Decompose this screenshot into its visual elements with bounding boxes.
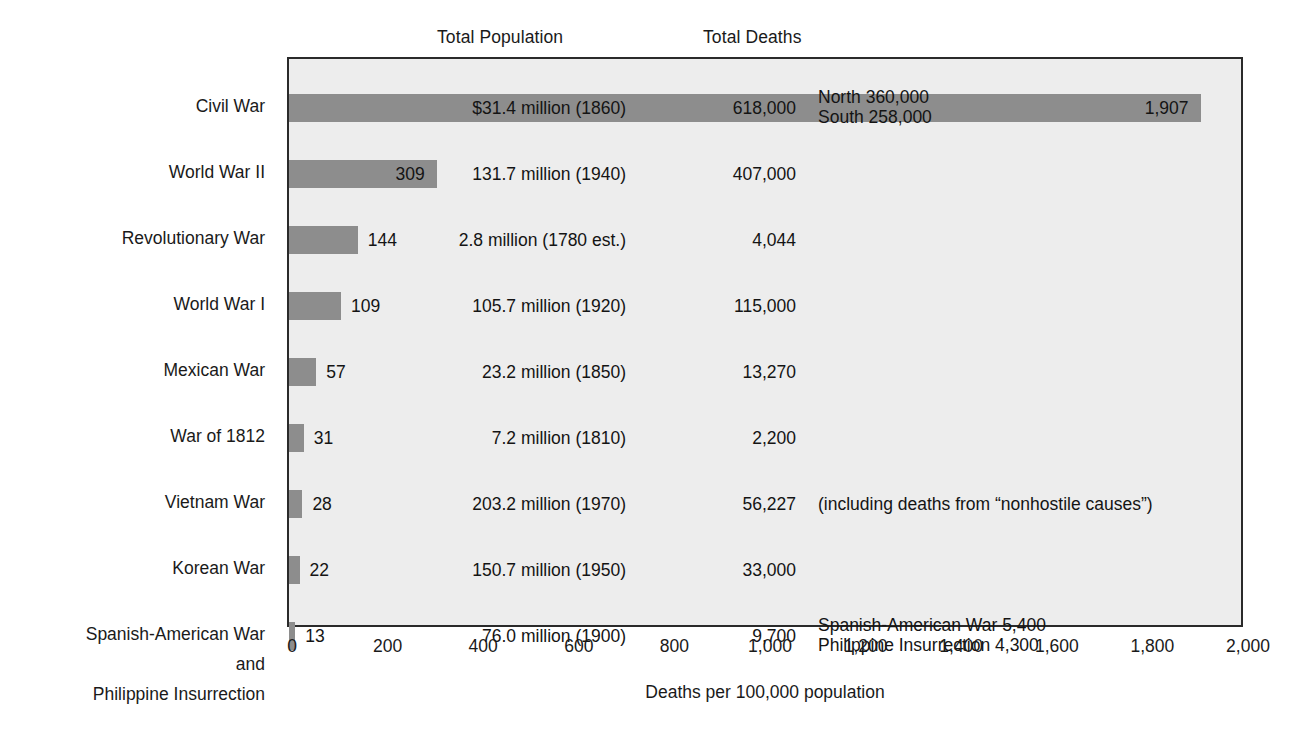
category-label: Spanish-American WarandPhilippine Insurr… xyxy=(86,619,265,709)
bar xyxy=(289,292,341,320)
cell-total-deaths: 56,227 xyxy=(742,490,796,518)
category-label: World War I xyxy=(174,289,265,319)
x-tick-label: 400 xyxy=(469,636,498,657)
category-label: World War II xyxy=(169,157,265,187)
category-label: Mexican War xyxy=(164,355,265,385)
x-tick-label: 1,400 xyxy=(939,636,983,657)
category-label: War of 1812 xyxy=(170,421,265,451)
cell-note: (including deaths from “nonhostile cause… xyxy=(818,490,1153,518)
category-label: Civil War xyxy=(196,91,265,121)
bar-value-label: 31 xyxy=(314,424,333,452)
cell-total-population: 150.7 million (1950) xyxy=(472,556,626,584)
cell-total-deaths: 13,270 xyxy=(742,358,796,386)
chart-row: 5723.2 million (1850)13,270 xyxy=(289,339,1241,405)
chart-row: 109105.7 million (1920)115,000 xyxy=(289,273,1241,339)
x-tick-label: 0 xyxy=(287,636,297,657)
column-header-total-population: Total Population xyxy=(437,27,563,48)
x-tick-label: 800 xyxy=(660,636,689,657)
chart-row: 28203.2 million (1970)56,227(including d… xyxy=(289,471,1241,537)
x-tick-label: 1,200 xyxy=(844,636,888,657)
cell-total-deaths: 618,000 xyxy=(733,94,796,122)
bar-value-label: 144 xyxy=(368,226,397,254)
cell-total-population: 105.7 million (1920) xyxy=(472,292,626,320)
bar xyxy=(289,226,358,254)
chart-row: 1442.8 million (1780 est.)4,044 xyxy=(289,207,1241,273)
x-tick-label: 200 xyxy=(373,636,402,657)
bar xyxy=(289,556,300,584)
bar-value-label: 28 xyxy=(312,490,331,518)
x-tick-label: 1,800 xyxy=(1130,636,1174,657)
cell-total-population: 2.8 million (1780 est.) xyxy=(459,226,626,254)
x-tick-label: 600 xyxy=(564,636,593,657)
chart-plot-area: 1,907$31.4 million (1860)618,000North 36… xyxy=(287,57,1243,627)
bar-value-label: 57 xyxy=(326,358,345,386)
cell-total-population: $31.4 million (1860) xyxy=(472,94,626,122)
cell-total-deaths: 407,000 xyxy=(733,160,796,188)
chart-row: 22150.7 million (1950)33,000 xyxy=(289,537,1241,603)
cell-total-deaths: 33,000 xyxy=(742,556,796,584)
cell-total-deaths: 4,044 xyxy=(752,226,796,254)
chart-row: 317.2 million (1810)2,200 xyxy=(289,405,1241,471)
cell-total-deaths: 115,000 xyxy=(734,292,796,320)
bar-value-label: 22 xyxy=(310,556,329,584)
cell-note: North 360,000South 258,000 xyxy=(818,87,932,129)
x-tick-label: 2,000 xyxy=(1226,636,1270,657)
x-axis-title: Deaths per 100,000 population xyxy=(287,682,1243,703)
x-tick-label: 1,600 xyxy=(1035,636,1079,657)
cell-total-population: 131.7 million (1940) xyxy=(472,160,626,188)
bar-value-label: 309 xyxy=(289,160,425,188)
category-label: Vietnam War xyxy=(165,487,265,517)
cell-total-population: 203.2 million (1970) xyxy=(472,490,626,518)
category-label: Revolutionary War xyxy=(122,223,265,253)
bar xyxy=(289,424,304,452)
x-tick-label: 1,000 xyxy=(748,636,792,657)
cell-total-population: 23.2 million (1850) xyxy=(482,358,626,386)
category-label: Korean War xyxy=(172,553,265,583)
column-header-total-deaths: Total Deaths xyxy=(703,27,801,48)
chart-row: 1,907$31.4 million (1860)618,000North 36… xyxy=(289,75,1241,141)
bar-value-label: 109 xyxy=(351,292,380,320)
chart-row: 309131.7 million (1940)407,000 xyxy=(289,141,1241,207)
cell-total-population: 7.2 million (1810) xyxy=(492,424,626,452)
bar xyxy=(289,490,302,518)
bar xyxy=(289,358,316,386)
x-axis-ticks: 02004006008001,0001,2001,4001,6001,8002,… xyxy=(287,636,1243,666)
cell-total-deaths: 2,200 xyxy=(752,424,796,452)
